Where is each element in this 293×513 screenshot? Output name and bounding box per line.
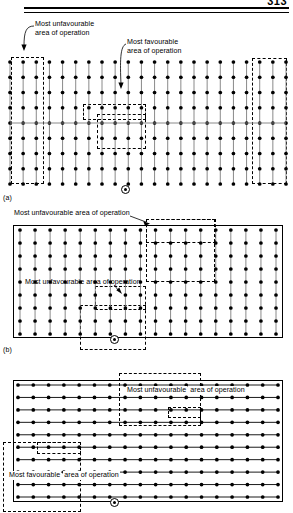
grid-node (229, 280, 233, 284)
grid-node (261, 470, 265, 474)
grid-node (230, 495, 234, 499)
grid-node (169, 458, 173, 462)
grid-node (63, 254, 67, 258)
grid-node (271, 75, 275, 79)
grid-node (126, 75, 130, 79)
grid-node (48, 293, 52, 297)
grid-node (215, 445, 219, 449)
grid-node (113, 91, 117, 95)
grid-node (31, 408, 35, 412)
grid-node (63, 306, 67, 310)
grid-node (218, 136, 222, 140)
grid-node (109, 241, 113, 245)
grid-node (246, 433, 250, 437)
grid-node (62, 420, 66, 424)
grid-node (258, 136, 262, 140)
grid-node (139, 433, 143, 437)
grid-node (139, 280, 143, 284)
grid-node (16, 420, 20, 424)
grid-node (62, 383, 66, 387)
grid-node (214, 280, 218, 284)
grid-node (93, 280, 97, 284)
grid-node (199, 280, 203, 284)
grid-node (166, 136, 170, 140)
grid-node (245, 136, 249, 140)
grid-node (246, 396, 250, 400)
grid-node (246, 458, 250, 462)
grid-node (205, 106, 209, 110)
grid-node (34, 167, 38, 171)
grid-node (77, 408, 81, 412)
grid-node (192, 106, 196, 110)
grid-node (166, 152, 170, 156)
panel-b-caption: (b) (3, 346, 12, 353)
grid-node (100, 60, 104, 64)
grid-node (184, 280, 188, 284)
grid-node (62, 483, 66, 487)
grid-node (16, 458, 20, 462)
grid-node (214, 241, 218, 245)
grid-node (47, 495, 51, 499)
grid-node (200, 470, 204, 474)
grid-node (48, 136, 52, 140)
grid-node (123, 433, 127, 437)
grid-node (108, 396, 112, 400)
grid-node (77, 495, 81, 499)
grid-node (200, 483, 204, 487)
grid-node (232, 60, 236, 64)
grid-node (169, 267, 173, 271)
annotation-line: Most unfavourable (35, 20, 94, 29)
grid-node (61, 152, 65, 156)
grid-node (33, 241, 37, 245)
grid-node (34, 106, 38, 110)
grid-node (74, 152, 78, 156)
grid-node (169, 408, 173, 412)
grid-node (274, 254, 278, 258)
grid-node (271, 106, 275, 110)
grid-node (154, 293, 158, 297)
grid-node (259, 280, 263, 284)
grid-node (100, 106, 104, 110)
grid-node (271, 182, 275, 186)
grid-node (77, 383, 81, 387)
grid-node (199, 228, 203, 232)
grid-node (169, 228, 173, 232)
grid-node (153, 167, 157, 171)
grid-node (63, 293, 67, 297)
grid-node (21, 106, 25, 110)
grid-node (258, 60, 262, 64)
grid-node (276, 470, 280, 474)
grid-node (230, 483, 234, 487)
grid-node (179, 167, 183, 171)
grid-node (258, 75, 262, 79)
grid-node (139, 306, 143, 310)
panel-a: Most unfavourable area of operation Most… (0, 18, 293, 210)
grid-node (78, 267, 82, 271)
grid-node (244, 332, 248, 336)
grid-node (232, 152, 236, 156)
grid-node (199, 306, 203, 310)
grid-node (123, 470, 127, 474)
grid-node (154, 332, 158, 336)
grid-node (230, 458, 234, 462)
grid-node (47, 408, 51, 412)
grid-node (229, 306, 233, 310)
grid-node (245, 167, 249, 171)
grid-node (126, 167, 130, 171)
grid-node (62, 433, 66, 437)
grid-node (166, 106, 170, 110)
grid-node (139, 254, 143, 258)
grid-node (271, 167, 275, 171)
grid-node (276, 433, 280, 437)
grid-node (108, 445, 112, 449)
grid-node (8, 152, 12, 156)
grid-node (108, 458, 112, 462)
grid-node (78, 228, 82, 232)
grid-node (271, 60, 275, 64)
grid-node (154, 408, 158, 412)
grid-node (244, 267, 248, 271)
grid-node (261, 383, 265, 387)
grid-node (229, 332, 233, 336)
grid-node (200, 408, 204, 412)
grid-node (113, 60, 117, 64)
